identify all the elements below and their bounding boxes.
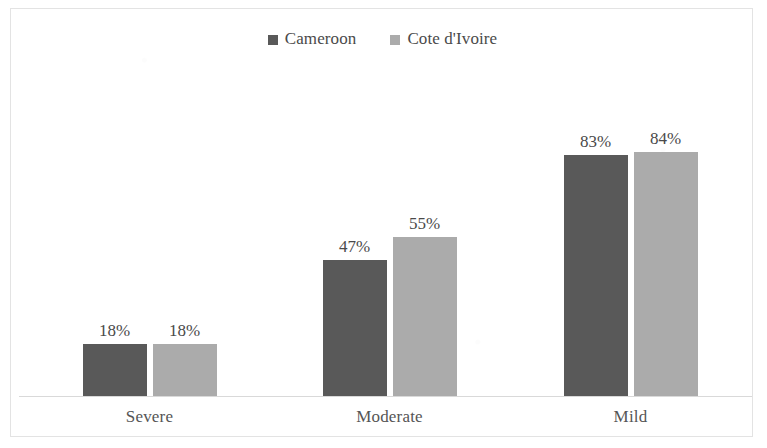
- bar-group-moderate: 47% 55%: [287, 51, 492, 396]
- bar-value-label: 55%: [409, 215, 440, 232]
- bar-value-label: 18%: [169, 322, 200, 339]
- legend-label-cote-divoire: Cote d'Ivoire: [407, 29, 497, 49]
- bar-cameroon-mild[interactable]: [564, 155, 628, 396]
- bar-item-cote-divoire-moderate[interactable]: 55%: [393, 51, 457, 396]
- bar-cote-divoire-severe[interactable]: [153, 344, 217, 396]
- bar-value-label: 18%: [99, 322, 130, 339]
- bar-value-label: 47%: [339, 238, 370, 255]
- plot-area: Cameroon Cote d'Ivoire 18% 18% 47%: [11, 9, 754, 438]
- bar-value-label: 83%: [580, 133, 611, 150]
- bar-item-cote-divoire-mild[interactable]: 84%: [634, 51, 698, 396]
- legend-label-cameroon: Cameroon: [285, 29, 357, 49]
- bar-cote-divoire-mild[interactable]: [634, 152, 698, 396]
- x-axis-label-mild: Mild: [528, 407, 733, 427]
- x-axis-label-severe: Severe: [47, 407, 252, 427]
- legend-swatch-light-icon: [390, 35, 400, 45]
- x-axis-line: [19, 396, 752, 397]
- chart-container: Cameroon Cote d'Ivoire 18% 18% 47%: [10, 8, 753, 437]
- bar-group-mild: 83% 84%: [528, 51, 733, 396]
- chart-legend: Cameroon Cote d'Ivoire: [11, 29, 754, 49]
- x-axis-label-moderate: Moderate: [287, 407, 492, 427]
- legend-entry-cote-divoire[interactable]: Cote d'Ivoire: [390, 29, 497, 49]
- bar-cote-divoire-moderate[interactable]: [393, 237, 457, 397]
- bar-cameroon-severe[interactable]: [83, 344, 147, 396]
- bar-item-cameroon-moderate[interactable]: 47%: [323, 51, 387, 396]
- bar-group-severe: 18% 18%: [47, 51, 252, 396]
- bar-value-label: 84%: [650, 130, 681, 147]
- bar-item-cameroon-severe[interactable]: 18%: [83, 51, 147, 396]
- legend-swatch-dark-icon: [268, 35, 278, 45]
- bar-item-cameroon-mild[interactable]: 83%: [564, 51, 628, 396]
- legend-entry-cameroon[interactable]: Cameroon: [268, 29, 357, 49]
- bar-cameroon-moderate[interactable]: [323, 260, 387, 396]
- bar-item-cote-divoire-severe[interactable]: 18%: [153, 51, 217, 396]
